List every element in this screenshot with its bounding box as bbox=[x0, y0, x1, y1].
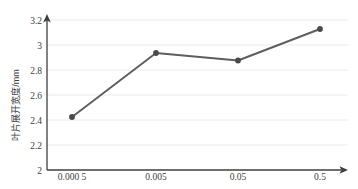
y-tick-labels: 3.2 3 2.8 2.6 2.4 2.2 2 bbox=[30, 16, 42, 176]
data-point bbox=[317, 26, 323, 32]
y-tick-label: 2.8 bbox=[30, 66, 42, 76]
series-line-leaf-width bbox=[72, 29, 320, 117]
data-series bbox=[69, 26, 323, 120]
y-tick-label: 2.4 bbox=[30, 116, 42, 126]
line-chart: 3.2 3 2.8 2.6 2.4 2.2 2 0.000 5 0.005 0.… bbox=[0, 0, 358, 189]
x-tick-label: 0.000 5 bbox=[58, 172, 87, 182]
y-tick-label: 2.6 bbox=[30, 91, 42, 101]
x-tick-labels: 0.000 5 0.005 0.05 0.5 bbox=[58, 172, 326, 182]
x-axis bbox=[47, 166, 348, 174]
x-tick-label: 0.05 bbox=[230, 172, 247, 182]
chart-canvas: 3.2 3 2.8 2.6 2.4 2.2 2 0.000 5 0.005 0.… bbox=[0, 0, 358, 189]
y-axis bbox=[43, 14, 51, 170]
x-tick-label: 0.5 bbox=[314, 172, 326, 182]
gridlines bbox=[47, 20, 348, 145]
data-point bbox=[153, 50, 159, 56]
data-point bbox=[69, 114, 75, 120]
y-axis-title: 叶片展开宽度/mm bbox=[10, 69, 21, 141]
y-tick-label: 2 bbox=[37, 166, 42, 176]
y-tick-label: 3 bbox=[37, 41, 42, 51]
y-tick-label: 2.2 bbox=[30, 141, 42, 151]
x-tick-label: 0.005 bbox=[145, 172, 167, 182]
data-point bbox=[235, 58, 241, 64]
y-tick-label: 3.2 bbox=[30, 16, 42, 26]
